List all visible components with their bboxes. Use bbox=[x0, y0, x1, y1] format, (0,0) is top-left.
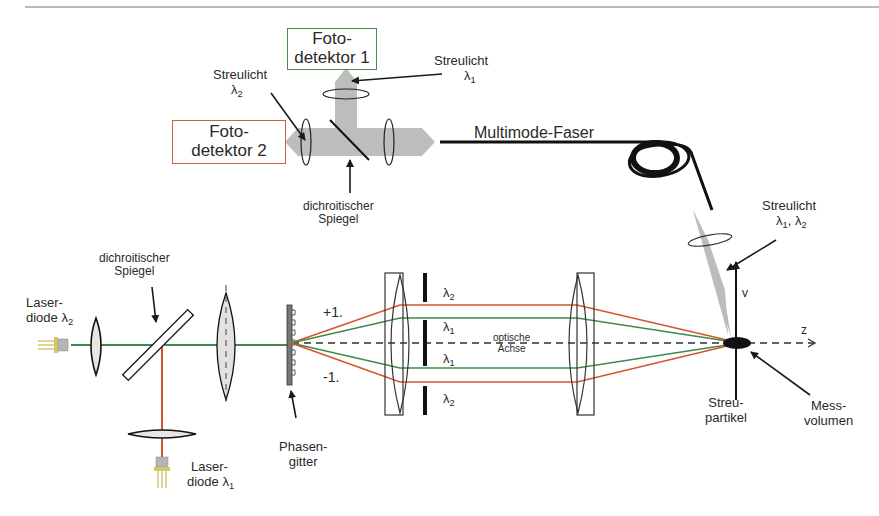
label-text: gitter bbox=[279, 455, 327, 470]
laser-diode-1 bbox=[154, 457, 170, 488]
lambda-index: 2 bbox=[68, 317, 73, 327]
label-text: Spiegel bbox=[99, 265, 170, 278]
label-optical-axis: optische Achse bbox=[493, 332, 530, 354]
photodetector-1-line2: detektor 1 bbox=[294, 49, 370, 68]
photodetector-2-line1: Foto- bbox=[209, 123, 249, 142]
label-text: optische bbox=[493, 332, 530, 343]
label-text: Laser- bbox=[187, 460, 234, 475]
measurement-volume bbox=[723, 337, 751, 349]
label-text: Laser- bbox=[26, 296, 73, 311]
lambda-index: 1 bbox=[471, 75, 476, 85]
label-text: diode bbox=[187, 474, 222, 489]
lens-transmitter-2 bbox=[569, 273, 594, 415]
label-beam-lambda1-bottom: λ1 bbox=[443, 352, 455, 369]
label-streulicht-lambda2: Streulicht λ2 bbox=[213, 68, 267, 99]
label-laser-diode-1: Laser- diode λ1 bbox=[187, 460, 234, 491]
label-text: Streulicht bbox=[213, 68, 267, 83]
label-text: partikel bbox=[705, 411, 747, 426]
label-z-axis: z bbox=[801, 324, 807, 337]
lambda-index: 2 bbox=[450, 292, 455, 302]
label-streulicht-lambda1: Streulicht λ1 bbox=[434, 54, 488, 85]
lens-collimator-1 bbox=[128, 430, 196, 438]
label-text: Spiegel bbox=[303, 213, 374, 226]
label-order-minus-1: -1. bbox=[323, 370, 339, 386]
label-text: Streulicht bbox=[434, 54, 488, 69]
label-text: Streulicht bbox=[762, 199, 816, 214]
lambda-index: 1 bbox=[450, 358, 455, 368]
label-beam-lambda1-top: λ1 bbox=[443, 320, 455, 337]
phase-grating bbox=[287, 305, 295, 385]
label-text: Streu- bbox=[705, 396, 747, 411]
label-text: Achse bbox=[493, 343, 530, 354]
label-text: volumen bbox=[804, 414, 853, 429]
lambda-index: 2 bbox=[238, 89, 243, 99]
lambda-index: 2 bbox=[450, 398, 455, 408]
label-multimode-fiber: Multimode-Faser bbox=[474, 124, 594, 142]
label-phase-grating: Phasen- gitter bbox=[279, 440, 327, 469]
lambda-index: 2 bbox=[801, 220, 806, 230]
label-scatter-particle: Streu- partikel bbox=[705, 396, 747, 425]
label-dichroic-mirror-left: dichroitischer Spiegel bbox=[99, 252, 170, 279]
label-measurement-volume: Mess- volumen bbox=[804, 399, 853, 428]
fiber-coil bbox=[633, 143, 677, 173]
label-dichroic-mirror-top: dichroitischer Spiegel bbox=[303, 200, 374, 227]
photodetector-1-line1: Foto- bbox=[312, 30, 352, 49]
label-text: Mess- bbox=[804, 399, 853, 414]
photodetector-2-line2: detektor 2 bbox=[191, 142, 267, 161]
label-text: dichroitischer bbox=[99, 252, 170, 265]
label-text: diode bbox=[26, 310, 61, 325]
label-laser-diode-2: Laser- diode λ2 bbox=[26, 296, 73, 327]
lambda-index: 1 bbox=[229, 481, 234, 491]
scatter-light-vertical bbox=[335, 68, 357, 128]
multimode-fiber bbox=[440, 142, 712, 210]
label-v-axis: v bbox=[742, 287, 748, 300]
separator: , bbox=[788, 213, 795, 228]
label-order-plus-1: +1. bbox=[323, 305, 343, 321]
lambda-index: 1 bbox=[450, 326, 455, 336]
label-streulicht-both: Streulicht λ1, λ2 bbox=[762, 199, 816, 230]
label-beam-lambda2-bottom: λ2 bbox=[443, 392, 455, 409]
label-beam-lambda2-top: λ2 bbox=[443, 286, 455, 303]
lens-transmitter-1 bbox=[385, 273, 409, 415]
laser-diode-2 bbox=[38, 337, 68, 353]
lens-collimator-2 bbox=[91, 318, 101, 375]
photodetector-1: Foto- detektor 1 bbox=[287, 28, 377, 70]
label-text: Phasen- bbox=[279, 440, 327, 455]
label-text: dichroitischer bbox=[303, 200, 374, 213]
photodetector-2: Foto- detektor 2 bbox=[172, 120, 286, 164]
